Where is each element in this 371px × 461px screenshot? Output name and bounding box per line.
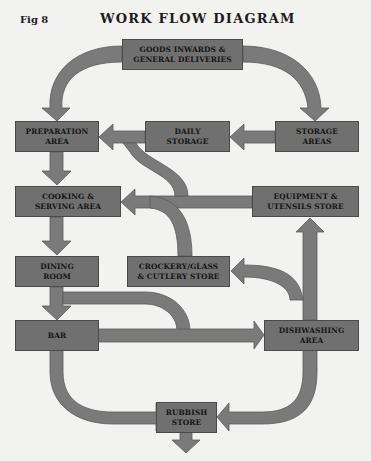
arrow-dishwashing-to-equipment: [296, 218, 324, 320]
arrow-cooking-to-dining: [42, 217, 71, 255]
node-storage-areas: STORAGE AREAS: [275, 121, 359, 152]
node-goods-inwards: GOODS INWARDS & GENERAL DELIVERIES: [122, 39, 243, 70]
node-dishwashing-area: DISHWASHING AREA: [264, 320, 359, 351]
arrow-goods-to-storage: [243, 46, 329, 121]
node-bar: BAR: [15, 320, 99, 351]
node-crockery-glass-cutlery-store: CROCKERY/GLASS & CUTLERY STORE: [127, 256, 230, 287]
arrow-dishwashing-to-rubbish: [217, 350, 317, 431]
node-rubbish-store: RUBBISH STORE: [156, 402, 217, 433]
node-dining-room: DINING ROOM: [15, 256, 99, 287]
arrow-goods-to-preparation: [42, 46, 122, 121]
node-daily-storage: DAILY STORAGE: [145, 121, 230, 152]
arrow-dishwashing-to-crockery: [231, 258, 303, 300]
node-preparation-area: PREPARATION AREA: [15, 121, 99, 152]
arrow-rubbish-out: [172, 432, 200, 453]
node-cooking-serving-area: COOKING & SERVING AREA: [15, 186, 121, 217]
arrow-preparation-to-cooking: [42, 152, 71, 185]
node-equipment-utensils-store: EQUIPMENT & UTENSILS STORE: [252, 186, 359, 217]
arrow-bar-to-rubbish: [50, 350, 169, 431]
arrow-storage-to-daily: [230, 124, 275, 150]
